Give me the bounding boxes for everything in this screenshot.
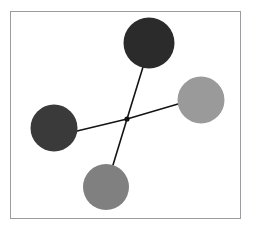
node-layer: [31, 18, 225, 211]
graph-node-center-hub: [124, 116, 129, 121]
edge-layer: [77, 67, 178, 165]
figure-canvas: [0, 0, 255, 230]
node-link-diagram: [0, 0, 255, 230]
graph-node-bottom-node: [83, 164, 129, 210]
graph-node-right-node: [178, 77, 225, 124]
hub-layer: [124, 116, 129, 121]
graph-edge-hub-to-bottom: [113, 119, 127, 165]
graph-edge-hub-to-top: [127, 67, 143, 119]
graph-node-top-node: [124, 18, 175, 69]
graph-edge-hub-to-left: [77, 119, 127, 131]
graph-edge-hub-to-right: [127, 104, 178, 119]
graph-node-left-node: [31, 105, 78, 152]
